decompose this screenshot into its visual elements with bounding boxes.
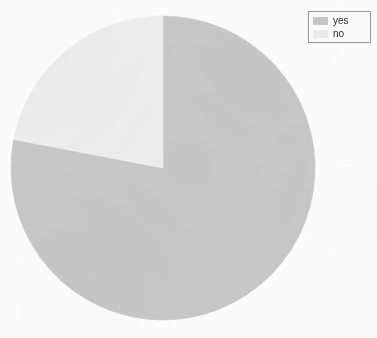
legend-label-no: no bbox=[333, 28, 344, 39]
legend-item-no[interactable]: no bbox=[313, 28, 365, 39]
pie-chart-figure: yes no bbox=[0, 0, 377, 338]
legend-item-yes[interactable]: yes bbox=[313, 15, 365, 26]
pie-svg bbox=[8, 13, 318, 323]
legend-swatch-yes bbox=[313, 17, 328, 25]
legend-label-yes: yes bbox=[333, 15, 349, 26]
pie-body bbox=[8, 13, 318, 323]
legend-swatch-no bbox=[313, 30, 328, 38]
chart-legend: yes no bbox=[308, 11, 371, 43]
